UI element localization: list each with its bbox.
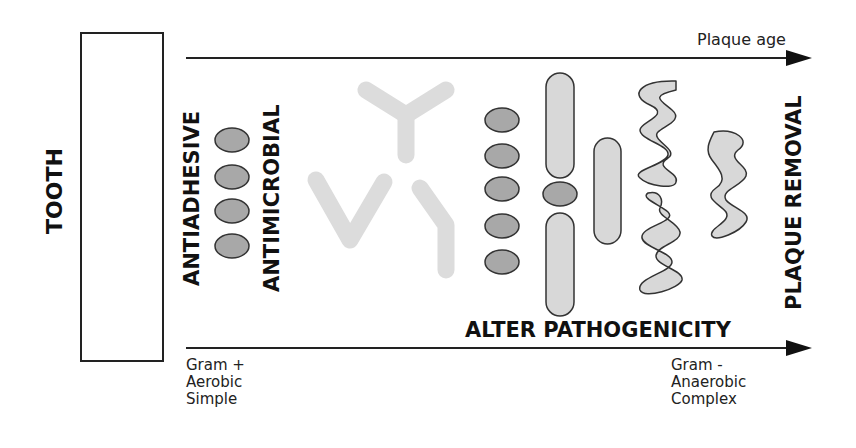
antimicrobial-label: ANTIMICROBIAL [260,104,284,292]
antibody-icons [316,90,446,270]
tooth-label: TOOTH [42,148,67,234]
gradient-arrow [186,340,812,356]
gram-positive-label: Gram + [186,357,245,374]
antiadhesive-label: ANTIADHESIVE [180,111,204,286]
bottom-left-legend: Gram + Aerobic Simple [186,357,245,408]
gram-negative-label: Gram - [671,357,746,374]
spirochete-bacteria [638,81,747,294]
plaque-diagram: TOOTH Plaque age ANTIADHESIVE ANTIMICROB… [0,0,856,448]
complex-label: Complex [671,391,746,408]
tooth-box [81,33,163,361]
simple-label: Simple [186,391,245,408]
plaque-removal-label: PLAQUE REMOVAL [782,95,806,310]
anaerobic-label: Anaerobic [671,374,746,391]
alter-pathogenicity-label: ALTER PATHOGENICITY [465,318,731,342]
aerobic-label: Aerobic [186,374,245,391]
bottom-right-legend: Gram - Anaerobic Complex [671,357,746,408]
cocci-column-early [215,128,249,258]
plaque-age-label: Plaque age [697,30,786,49]
plaque-age-arrow [186,50,812,66]
